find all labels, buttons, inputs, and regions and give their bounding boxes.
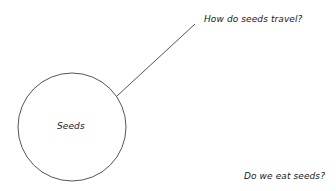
branch-label-eat-seeds: Do we eat seeds? bbox=[244, 172, 325, 181]
diagram-canvas bbox=[0, 0, 336, 191]
center-node-label: Seeds bbox=[57, 122, 85, 131]
branch-connector-line bbox=[117, 24, 195, 96]
branch-label-seed-travel: How do seeds travel? bbox=[204, 15, 303, 24]
